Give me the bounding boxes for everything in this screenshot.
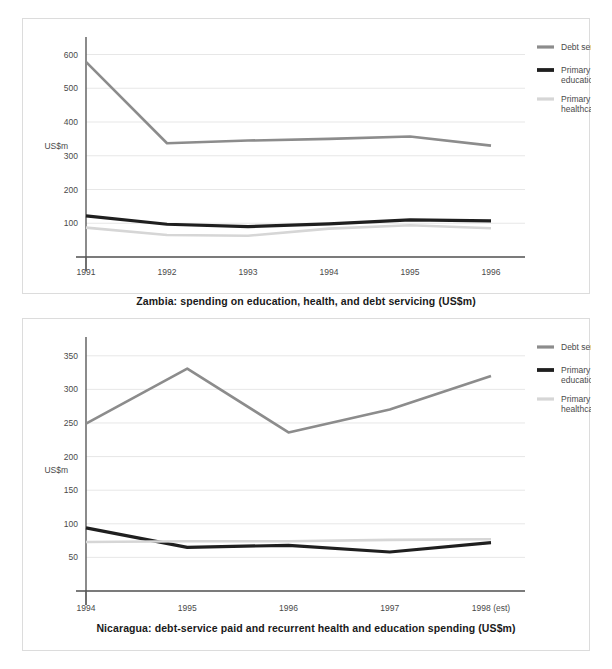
line-chart-zambia: 100200300400500600US$m199119921993199419… [23, 19, 591, 295]
x-axis-tick-label: 1996 [482, 267, 501, 277]
series-line-debt-service [86, 62, 491, 146]
legend-label: Primary [561, 365, 591, 375]
y-axis-tick-label: 600 [64, 50, 78, 60]
y-axis-tick-label: 300 [64, 384, 78, 394]
x-axis-tick-label: 1995 [401, 267, 420, 277]
y-axis-tick-label: 200 [64, 185, 78, 195]
chart-panel-nicaragua: 50100150200250300350US$m1994199519961997… [22, 318, 590, 651]
x-axis-tick-label: 1996 [279, 603, 298, 613]
plot-area-nicaragua: 50100150200250300350US$m1994199519961997… [23, 319, 589, 650]
chart-title-nicaragua: Nicaragua: debt-service paid and recurre… [0, 622, 612, 634]
y-axis-tick-label: 300 [64, 151, 78, 161]
y-axis-unit-label: US$m [44, 465, 68, 475]
legend-label-line2: healthcare [561, 104, 591, 114]
y-axis-unit-label: US$m [44, 141, 68, 151]
x-axis-tick-label: 1998 (est) [472, 603, 510, 613]
legend-label: Primary [561, 394, 591, 404]
x-axis-tick-label: 1992 [158, 267, 177, 277]
legend-label: Primary [561, 94, 591, 104]
y-axis-tick-label: 200 [64, 452, 78, 462]
legend-label: Primary [561, 65, 591, 75]
y-axis-tick-label: 50 [69, 552, 79, 562]
chart-page: 100200300400500600US$m199119921993199419… [0, 0, 612, 669]
plot-area-zambia: 100200300400500600US$m199119921993199419… [23, 19, 589, 293]
x-axis-tick-label: 1997 [380, 603, 399, 613]
x-axis-tick-label: 1994 [320, 267, 339, 277]
y-axis-tick-label: 100 [64, 519, 78, 529]
x-axis-tick-label: 1993 [239, 267, 258, 277]
y-axis-tick-label: 250 [64, 418, 78, 428]
y-axis-tick-label: 400 [64, 117, 78, 127]
legend-label: Debt service [561, 342, 591, 352]
legend-label: Debt service [561, 42, 591, 52]
y-axis-tick-label: 500 [64, 83, 78, 93]
chart-panel-zambia: 100200300400500600US$m199119921993199419… [22, 18, 590, 294]
legend-label-line2: education [561, 375, 591, 385]
chart-title-zambia: Zambia: spending on education, health, a… [0, 295, 612, 307]
legend-label-line2: education [561, 75, 591, 85]
y-axis-tick-label: 150 [64, 485, 78, 495]
line-chart-nicaragua: 50100150200250300350US$m1994199519961997… [23, 319, 591, 652]
x-axis-tick-label: 1995 [178, 603, 197, 613]
y-axis-tick-label: 350 [64, 351, 78, 361]
y-axis-tick-label: 100 [64, 218, 78, 228]
legend-label-line2: healthcare [561, 404, 591, 414]
